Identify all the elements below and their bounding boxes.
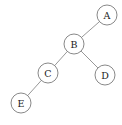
node-e[interactable]: E (11, 93, 31, 113)
node-group: A B C D E (11, 5, 117, 113)
node-label-e: E (18, 98, 25, 109)
node-a[interactable]: A (97, 5, 117, 25)
node-d[interactable]: D (95, 65, 115, 85)
node-label-a: A (103, 10, 111, 21)
node-label-d: D (101, 70, 109, 81)
edge-c-e (28, 80, 42, 95)
edge-b-a (82, 22, 100, 38)
node-label-c: C (44, 68, 51, 79)
node-b[interactable]: B (64, 34, 84, 54)
graph-diagram-svg: A B C D E (0, 0, 122, 125)
edge-b-d (81, 51, 98, 68)
node-label-b: B (71, 39, 78, 50)
edge-group (28, 22, 100, 96)
edge-b-c (55, 51, 68, 65)
node-c[interactable]: C (38, 63, 58, 83)
graph-diagram-canvas: A B C D E (0, 0, 122, 125)
